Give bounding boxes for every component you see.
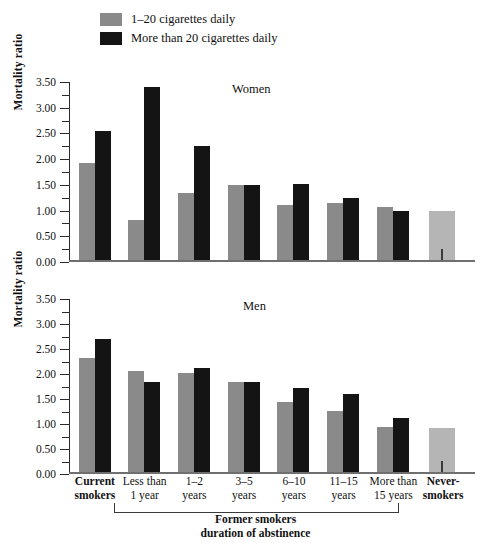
y-tick-label-women-2: 1.00 xyxy=(36,205,56,217)
x-axis-label-1: Less than1 year xyxy=(120,475,170,502)
y-tick-women-1 xyxy=(60,236,69,237)
former-smokers-caption-line1: Former smokers xyxy=(114,513,397,527)
bar-women-light-5 xyxy=(327,203,343,262)
bar-group-men-2 xyxy=(169,299,219,474)
bar-men-light-6 xyxy=(377,427,393,475)
y-tick-men-6 xyxy=(60,324,69,325)
bar-women-never-7 xyxy=(429,211,455,262)
y-tick-label-men-1: 0.50 xyxy=(36,443,56,455)
y-tick-label-women-7: 3.50 xyxy=(36,76,56,88)
former-smokers-caption: Former smokers duration of abstinence xyxy=(114,513,397,540)
bar-group-women-5 xyxy=(318,82,368,262)
y-axis-title-women: Mortality ratio xyxy=(12,0,24,162)
x-axis-labels: CurrentsmokersLess than1 year1–2years3–5… xyxy=(70,475,468,502)
bar-men-heavy-2 xyxy=(194,368,210,474)
legend-label-light-smokers: 1–20 cigarettes daily xyxy=(131,13,235,26)
former-smokers-bracket xyxy=(114,503,399,513)
x-axis-label-5-line2: years xyxy=(319,489,369,503)
bar-group-women-2 xyxy=(169,82,219,262)
bar-women-light-0 xyxy=(79,163,95,262)
chart-legend: 1–20 cigarettes daily More than 20 cigar… xyxy=(100,10,420,48)
y-tick-minor-men-6 xyxy=(62,312,69,313)
bar-men-light-5 xyxy=(327,411,343,475)
former-smokers-caption-line2: duration of abstinence xyxy=(114,527,397,541)
x-axis-label-2-line1: 1–2 xyxy=(170,475,220,489)
bar-women-heavy-5 xyxy=(343,198,359,262)
bar-group-men-7 xyxy=(417,299,467,474)
y-tick-men-0 xyxy=(60,474,69,475)
x-axis-label-2-line2: years xyxy=(170,489,220,503)
y-tick-men-3 xyxy=(60,399,69,400)
bar-women-heavy-3 xyxy=(244,185,260,262)
y-tick-label-men-6: 3.00 xyxy=(36,318,56,330)
bar-men-light-4 xyxy=(277,402,293,475)
bar-women-light-3 xyxy=(228,185,244,262)
y-tick-minor-women-2 xyxy=(62,198,69,199)
panel-title-women: Women xyxy=(232,82,271,97)
y-tick-minor-men-1 xyxy=(62,437,69,438)
y-tick-label-women-5: 2.50 xyxy=(36,127,56,139)
y-tick-women-4 xyxy=(60,159,69,160)
bar-group-men-4 xyxy=(269,299,319,474)
x-axis-label-0-line2: smokers xyxy=(70,489,120,503)
bar-women-heavy-1 xyxy=(144,87,160,262)
x-axis-label-7: Never-smokers xyxy=(418,475,468,502)
x-axis-label-6-line2: 15 years xyxy=(369,489,419,503)
y-tick-minor-women-6 xyxy=(62,95,69,96)
y-tick-label-women-1: 0.50 xyxy=(36,230,56,242)
bar-group-women-3 xyxy=(219,82,269,262)
y-tick-label-men-0: 0.00 xyxy=(36,468,56,480)
y-tick-men-7 xyxy=(60,299,69,300)
y-tick-label-men-5: 2.50 xyxy=(36,343,56,355)
x-axis-label-3: 3–5years xyxy=(219,475,269,502)
x-axis-label-0-line1: Current xyxy=(70,475,120,489)
y-tick-women-5 xyxy=(60,133,69,134)
bar-groups-women xyxy=(70,82,467,262)
y-tick-minor-women-5 xyxy=(62,121,69,122)
bar-men-heavy-6 xyxy=(393,418,409,475)
y-axis-title-men: Mortality ratio xyxy=(12,199,24,379)
y-tick-women-7 xyxy=(60,82,69,83)
panel-title-men: Men xyxy=(243,299,266,314)
x-axis-label-1-line2: 1 year xyxy=(120,489,170,503)
bar-group-men-0 xyxy=(70,299,120,474)
y-tick-women-3 xyxy=(60,185,69,186)
plot-area-women: 0.000.501.001.502.002.503.003.50 xyxy=(69,82,467,262)
y-tick-women-0 xyxy=(60,262,69,263)
legend-label-heavy-smokers: More than 20 cigarettes daily xyxy=(131,32,277,45)
bar-men-never-7 xyxy=(429,428,455,474)
y-tick-minor-men-2 xyxy=(62,412,69,413)
x-axis-label-5-line1: 11–15 xyxy=(319,475,369,489)
bar-group-women-0 xyxy=(70,82,120,262)
y-axis-ticks-women xyxy=(60,82,69,262)
legend-item-heavy-smokers: More than 20 cigarettes daily xyxy=(100,29,420,48)
bar-women-light-6 xyxy=(377,207,393,262)
legend-swatch-gray-icon xyxy=(100,13,122,26)
plot-area-men: 0.000.501.001.502.002.503.003.50 xyxy=(69,299,467,474)
x-axis-line-women xyxy=(69,260,475,262)
bar-group-men-1 xyxy=(120,299,170,474)
x-axis-label-4: 6–10years xyxy=(269,475,319,502)
y-tick-label-women-3: 1.50 xyxy=(36,179,56,191)
y-tick-minor-women-0 xyxy=(62,249,69,250)
y-tick-minor-men-4 xyxy=(62,362,69,363)
x-axis-label-3-line1: 3–5 xyxy=(219,475,269,489)
x-axis-label-0: Currentsmokers xyxy=(70,475,120,502)
y-tick-label-women-4: 2.00 xyxy=(36,153,56,165)
y-tick-minor-men-5 xyxy=(62,337,69,338)
y-tick-label-men-4: 2.00 xyxy=(36,368,56,380)
y-axis-ticks-men xyxy=(60,299,69,474)
legend-item-light-smokers: 1–20 cigarettes daily xyxy=(100,10,420,29)
bar-group-men-5 xyxy=(318,299,368,474)
bar-group-men-3 xyxy=(219,299,269,474)
y-tick-minor-women-1 xyxy=(62,223,69,224)
bar-women-heavy-2 xyxy=(194,146,210,262)
y-tick-label-men-7: 3.50 xyxy=(36,293,56,305)
bar-men-heavy-1 xyxy=(144,382,160,475)
x-axis-label-4-line1: 6–10 xyxy=(269,475,319,489)
bar-group-women-6 xyxy=(368,82,418,262)
bar-women-heavy-6 xyxy=(393,211,409,262)
bar-women-light-4 xyxy=(277,205,293,262)
y-tick-minor-men-0 xyxy=(62,462,69,463)
x-axis-label-7-line1: Never- xyxy=(418,475,468,489)
